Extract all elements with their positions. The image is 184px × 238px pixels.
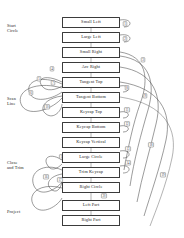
stage-label-close-trim: Close and Trim <box>7 160 24 171</box>
stage-label-start-circle: Start Circle <box>7 23 18 34</box>
diagram-canvas: 1234567891011121314151617181920 Small Le… <box>0 0 184 238</box>
stage-label-scan-line: Scan Line <box>7 96 16 107</box>
stage-label-layer: Start CircleScan LineClose and TrimProje… <box>0 0 184 238</box>
stage-label-project: Project <box>7 209 20 214</box>
